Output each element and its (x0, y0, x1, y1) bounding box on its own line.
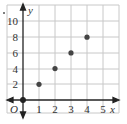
svg-text:2: 2 (52, 103, 58, 115)
grid (7, 5, 119, 113)
svg-text:3: 3 (68, 103, 74, 115)
origin-label: O (10, 103, 18, 115)
svg-text:10: 10 (7, 15, 19, 27)
x-axis-arrow-right-icon (113, 98, 119, 103)
svg-text:5: 5 (100, 103, 106, 115)
data-point (52, 66, 57, 71)
y-axis-label: y (27, 4, 33, 16)
data-point (84, 35, 89, 40)
bullet-mark (3, 12, 5, 14)
data-points (36, 35, 89, 87)
data-point (68, 50, 73, 55)
x-axis-label: x (109, 103, 115, 115)
svg-text:4: 4 (13, 63, 19, 75)
svg-text:2: 2 (13, 78, 19, 90)
svg-text:6: 6 (13, 47, 19, 59)
data-point (36, 82, 41, 87)
origin-dot (21, 98, 26, 103)
coordinate-plane: y x O 2 4 6 8 10 1 2 3 4 5 (0, 0, 127, 124)
svg-text:1: 1 (36, 103, 42, 115)
y-axis-arrow-down-icon (21, 112, 26, 118)
svg-text:4: 4 (84, 103, 90, 115)
svg-text:8: 8 (13, 31, 19, 43)
x-axis-arrow-left-icon (7, 98, 13, 103)
